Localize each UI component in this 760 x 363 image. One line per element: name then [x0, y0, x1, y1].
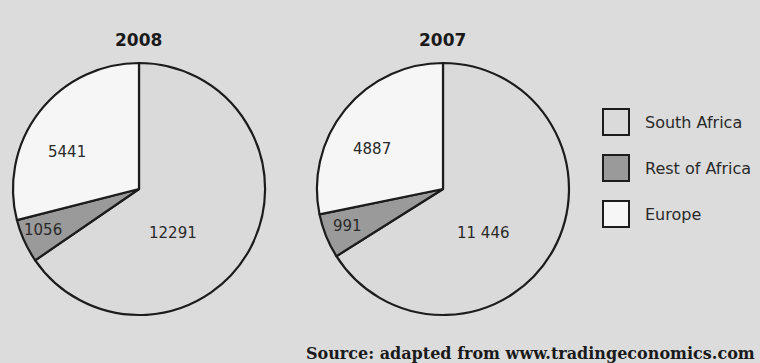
legend-label: Europe: [645, 205, 701, 224]
rest-of-africa-swatch-icon: [602, 154, 630, 182]
legend-label: South Africa: [645, 113, 742, 132]
pie-2008-title: 2008: [115, 30, 162, 50]
legend-item-europe: Europe: [602, 200, 751, 228]
pie-2007: [317, 63, 569, 315]
pie-2007-title: 2007: [419, 30, 466, 50]
pie-2007-rest-of-africa-value: 991: [333, 217, 362, 235]
legend: South Africa Rest of Africa Europe: [602, 108, 751, 246]
pie-2008-south-africa-value: 12291: [149, 224, 197, 242]
pie-2007-south-africa-value: 11 446: [457, 224, 510, 242]
south-africa-swatch-icon: [602, 108, 630, 136]
legend-item-rest-of-africa: Rest of Africa: [602, 154, 751, 182]
legend-item-south-africa: South Africa: [602, 108, 751, 136]
pie-2008-rest-of-africa-value: 1056: [24, 221, 62, 239]
pie-2007-europe-value: 4887: [353, 140, 391, 158]
pie-2008-europe-value: 5441: [48, 143, 86, 161]
source-note: Source: adapted from www.tradingeconomic…: [306, 344, 755, 363]
pie-2008: [13, 63, 265, 315]
europe-swatch-icon: [602, 200, 630, 228]
pie-2007-europe-slice: [317, 63, 443, 214]
legend-label: Rest of Africa: [645, 159, 751, 178]
